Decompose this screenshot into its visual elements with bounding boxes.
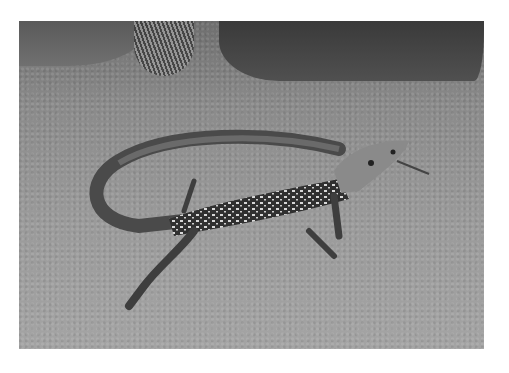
lizard-figure: [19, 21, 484, 349]
lizard-photo: [19, 21, 484, 349]
